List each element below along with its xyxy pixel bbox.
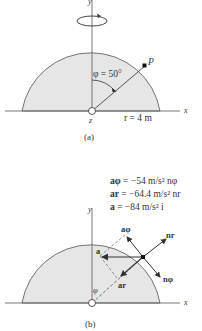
- y-axis-label-b: y: [88, 203, 92, 216]
- equation-a-total: a = −84 m/s² i: [110, 201, 180, 214]
- caption-b: (b): [85, 318, 96, 331]
- equation-block: aφ = −54 m/s² nφ ar = −64.4 m/s² nr a = …: [110, 175, 180, 214]
- a-phi-label: aφ: [121, 223, 131, 236]
- equation-a-r: ar = −64.4 m/s² nr: [110, 188, 180, 201]
- point-p-marker: [143, 64, 147, 68]
- x-axis-label-a: x: [184, 104, 188, 117]
- a-label: a: [96, 245, 100, 258]
- z-axis-label-a: z: [89, 114, 92, 127]
- equation-a-phi: aφ = −54 m/s² nφ: [110, 175, 180, 188]
- a-r-label: ar: [118, 279, 126, 292]
- radius-label-a: r = 4 m: [124, 112, 152, 125]
- a-phi-vector: [127, 237, 143, 257]
- n-r-label: nr: [166, 229, 175, 242]
- semicircle-b: [22, 245, 160, 303]
- point-label-p: P: [148, 56, 154, 69]
- point-p-marker-b: [141, 255, 145, 259]
- origin-pin-b: [89, 300, 96, 307]
- n-r-vector: [143, 239, 166, 257]
- semicircle-a: [22, 53, 160, 111]
- angle-label-b: φ: [93, 284, 98, 297]
- y-axis-label-a: y: [88, 0, 92, 8]
- x-axis-label-b: x: [184, 296, 188, 309]
- n-phi-label: nφ: [163, 273, 173, 286]
- angle-label-a: φ = 50°: [93, 68, 122, 81]
- caption-a: (a): [84, 131, 94, 144]
